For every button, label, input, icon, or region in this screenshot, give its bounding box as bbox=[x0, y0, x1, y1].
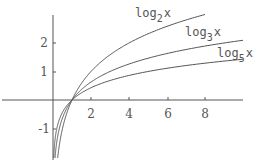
log-functions-chart: 2 4 6 8 2 1 -1 log2x log3x log5x bbox=[0, 0, 265, 164]
y-tick-label: 2 bbox=[40, 36, 48, 50]
curve-log3 bbox=[55, 40, 243, 158]
x-tick-label: 4 bbox=[125, 107, 133, 121]
y-tick-label: 1 bbox=[40, 65, 48, 79]
x-ticks: 2 4 6 8 bbox=[87, 97, 209, 121]
y-tick-label: -1 bbox=[38, 122, 50, 136]
curve-log5 bbox=[54, 59, 243, 158]
x-tick-label: 6 bbox=[164, 107, 172, 121]
label-log3: log3x bbox=[185, 25, 221, 43]
curve-log2 bbox=[58, 15, 205, 159]
x-tick-label: 8 bbox=[201, 107, 209, 121]
x-tick-label: 2 bbox=[87, 107, 95, 121]
label-log2: log2x bbox=[135, 6, 171, 24]
